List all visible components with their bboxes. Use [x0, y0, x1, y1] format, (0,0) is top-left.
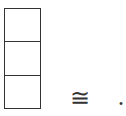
- three-cell-vertical-strip: [4, 8, 41, 109]
- period-dot: .: [115, 84, 126, 112]
- strip-cell-middle: [5, 41, 40, 74]
- congruent-symbol: ≅: [67, 84, 93, 112]
- strip-cell-bottom: [5, 75, 40, 108]
- strip-cell-top: [5, 9, 40, 41]
